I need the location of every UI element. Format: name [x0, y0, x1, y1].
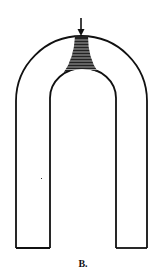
hatched-region	[64, 36, 98, 72]
down-arrow-icon	[78, 18, 85, 36]
inner-arch	[50, 68, 116, 248]
figure-label: B.	[0, 258, 155, 269]
u-tube-diagram	[0, 0, 155, 274]
scan-speck	[41, 178, 42, 179]
